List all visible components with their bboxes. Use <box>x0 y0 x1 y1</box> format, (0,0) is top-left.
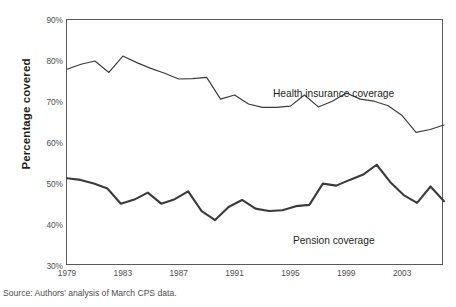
x-axis-tick-label: 2003 <box>393 268 411 278</box>
y-axis-tick-label: 70% <box>23 97 63 107</box>
x-axis-tick-label: 1979 <box>58 268 76 278</box>
series-label-pension-coverage: Pension coverage <box>293 235 375 246</box>
plot-area: 30%40%50%60%70%80%90% 197919831987199119… <box>66 19 443 265</box>
x-axis-tick-label: 1999 <box>337 268 355 278</box>
chart-lines <box>67 20 444 266</box>
series-line-pension-coverage <box>67 165 444 220</box>
y-axis-tick-label: 50% <box>23 179 63 189</box>
y-axis-tick-label: 40% <box>23 220 63 230</box>
y-axis-tick-label: 80% <box>23 56 63 66</box>
x-axis-tick-label: 1991 <box>225 268 243 278</box>
source-note: Source: Authors' analysis of March CPS d… <box>3 288 177 298</box>
y-axis-tick-label: 90% <box>23 15 63 25</box>
y-axis-title: Percentage covered <box>20 24 32 204</box>
series-label-health-insurance-coverage: Health insurance coverage <box>273 88 394 99</box>
figure-container: Percentage covered 30%40%50%60%70%80%90%… <box>0 0 456 307</box>
x-axis-tick-label: 1995 <box>281 268 299 278</box>
y-axis-tick-label: 60% <box>23 138 63 148</box>
x-axis-tick-label: 1987 <box>169 268 187 278</box>
x-axis-tick-label: 1983 <box>114 268 132 278</box>
